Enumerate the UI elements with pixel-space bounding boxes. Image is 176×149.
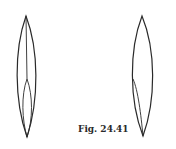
right-lens-outline bbox=[132, 16, 152, 136]
left-lens-center-line bbox=[26, 16, 27, 79]
figure-caption: Fig. 24.41 bbox=[78, 124, 129, 134]
right-lens bbox=[132, 16, 152, 136]
left-lens bbox=[17, 16, 36, 137]
right-lens-inner-curve bbox=[133, 79, 143, 136]
